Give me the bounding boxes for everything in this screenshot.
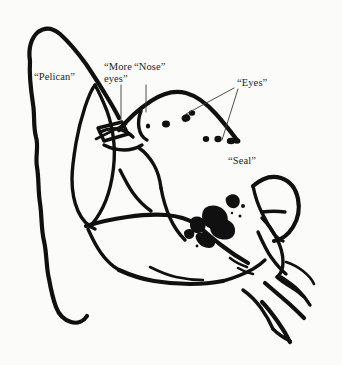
ink-blot-speck <box>239 215 242 218</box>
seal-tail-ridge-stroke <box>150 267 203 280</box>
ink-blot-speck <box>207 240 209 242</box>
label-more-eyes: “More eyes” <box>104 61 132 84</box>
seal-chest-stroke <box>120 170 151 211</box>
seal-snout-lower-stroke <box>104 145 142 150</box>
pelican-left-edge-stroke <box>30 61 87 323</box>
eye-spot <box>234 138 241 144</box>
label-pelican: “Pelican” <box>34 71 75 83</box>
pelican-beak-inner-stroke <box>72 85 95 229</box>
ink-blot-shape <box>196 232 216 248</box>
body-ink-blot-group <box>184 194 245 248</box>
eye-spot <box>162 121 170 128</box>
seal-belly-top-stroke <box>86 215 196 226</box>
seal-belly-lower-stroke <box>88 229 119 270</box>
ink-blot-shape <box>226 194 240 208</box>
hind-flipper-secondary-stroke <box>262 302 290 342</box>
drawing-canvas <box>0 0 342 365</box>
eye-spot <box>146 123 150 128</box>
ambiguous-figure-illustration: “Pelican”“More eyes”“Nose”“Eyes”“Seal” <box>0 0 342 365</box>
flipper-upper-vein-stroke <box>262 211 285 212</box>
eye-spot <box>214 136 221 142</box>
ink-blot-speck <box>241 204 245 208</box>
label-seal: “Seal” <box>228 155 256 167</box>
eye-spot <box>203 136 209 142</box>
label-nose: “Nose” <box>134 61 166 73</box>
seal-nose-mark-stroke <box>139 111 147 140</box>
seal-jaw-stroke <box>139 148 161 188</box>
seal-head-top-stroke <box>119 92 237 140</box>
ink-blot-shape <box>184 229 194 239</box>
ink-blot-speck <box>231 212 233 214</box>
label-eyes: “Eyes” <box>237 77 267 89</box>
tail-fan-upper-stroke <box>286 262 314 284</box>
ink-blot-speck <box>221 233 224 236</box>
ink-blot-speck <box>196 245 199 248</box>
